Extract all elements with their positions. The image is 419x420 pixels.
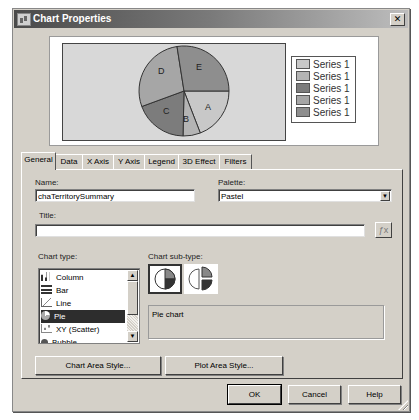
chart-type-label: Chart type:	[38, 252, 77, 261]
palette-label: Palette:	[218, 178, 245, 187]
subtype-exploded-pie[interactable]	[184, 264, 218, 294]
legend-item: Series 1	[296, 107, 350, 119]
legend-item: Series 1	[296, 59, 350, 71]
legend-item: Series 1	[296, 95, 350, 107]
label-c: C	[163, 106, 170, 116]
chart-type-xy-scatter[interactable]: XY (Scatter)	[41, 323, 125, 336]
pie-chart-icon	[41, 311, 50, 320]
chart-area-style-button[interactable]: Chart Area Style...	[35, 356, 161, 375]
chart-type-column[interactable]: Column	[41, 271, 125, 284]
chart-type-scrollbar[interactable]: ▲ ▼	[127, 270, 138, 342]
close-button[interactable]: ✕	[390, 13, 405, 26]
palette-select[interactable]: Pastel ▼	[218, 189, 392, 202]
general-tab-panel: Name: chaTerritorySummary Palette: Paste…	[21, 169, 403, 379]
legend-item: Series 1	[296, 83, 350, 95]
label-d: D	[158, 66, 165, 76]
chart-properties-dialog: Chart Properties ✕ A B C D E Series 1 Se…	[12, 8, 410, 412]
name-label: Name:	[35, 178, 59, 187]
chart-type-line[interactable]: Line	[41, 297, 125, 310]
chart-type-bubble[interactable]: Bubble	[41, 336, 125, 344]
chart-type-list[interactable]: Column Bar Line Pie XY (Scatter) Bubble …	[38, 268, 140, 344]
tab-data[interactable]: Data	[55, 154, 83, 169]
scroll-thumb[interactable]	[127, 281, 138, 315]
title-field[interactable]	[35, 224, 365, 237]
label-a: A	[205, 102, 211, 112]
tab-x-axis[interactable]: X Axis	[82, 154, 114, 169]
title-label: Title:	[39, 211, 56, 220]
name-field[interactable]: chaTerritorySummary	[35, 189, 195, 202]
ok-button[interactable]: OK	[228, 385, 281, 404]
tab-3d-effect[interactable]: 3D Effect	[178, 154, 220, 169]
scatter-chart-icon	[41, 324, 52, 333]
subtype-pie[interactable]	[148, 264, 182, 294]
label-b: B	[183, 114, 189, 124]
help-button[interactable]: Help	[348, 385, 401, 404]
palette-value: Pastel	[221, 192, 243, 201]
chevron-down-icon[interactable]: ▼	[380, 191, 390, 201]
tab-y-axis[interactable]: Y Axis	[113, 154, 145, 169]
bubble-chart-icon	[41, 339, 48, 344]
window-title: Chart Properties	[33, 13, 111, 24]
pie-chart: A B C D E	[63, 44, 285, 140]
title-bar[interactable]: Chart Properties ✕	[14, 10, 408, 28]
cancel-button[interactable]: Cancel	[288, 385, 341, 404]
line-chart-icon	[41, 298, 52, 307]
column-chart-icon	[41, 272, 52, 281]
subtype-label: Chart sub-type:	[148, 252, 203, 261]
expression-button[interactable]: ƒx	[375, 222, 392, 238]
plot-area: A B C D E	[62, 43, 286, 141]
legend-item: Series 1	[296, 71, 350, 83]
subtype-description: Pie chart	[148, 305, 384, 339]
chart-type-bar[interactable]: Bar	[41, 284, 125, 297]
plot-area-style-button[interactable]: Plot Area Style...	[165, 356, 283, 375]
label-e: E	[196, 62, 202, 72]
tab-filters[interactable]: Filters	[219, 154, 252, 169]
pie-subtype-icon	[150, 266, 180, 292]
slice-e	[177, 46, 229, 91]
bar-chart-icon	[41, 285, 52, 294]
chart-type-pie[interactable]: Pie	[41, 310, 125, 323]
exploded-pie-subtype-icon	[184, 264, 218, 294]
tab-general[interactable]: General	[21, 152, 56, 170]
chart-app-icon	[17, 13, 31, 26]
expression-icon: ƒx	[379, 225, 389, 235]
chart-legend: Series 1 Series 1 Series 1 Series 1 Seri…	[291, 56, 356, 123]
tab-legend[interactable]: Legend	[144, 154, 179, 169]
scroll-down-button[interactable]: ▼	[127, 331, 138, 342]
chart-preview: A B C D E Series 1 Series 1 Series 1 Ser…	[49, 36, 379, 146]
scroll-up-button[interactable]: ▲	[127, 270, 138, 281]
